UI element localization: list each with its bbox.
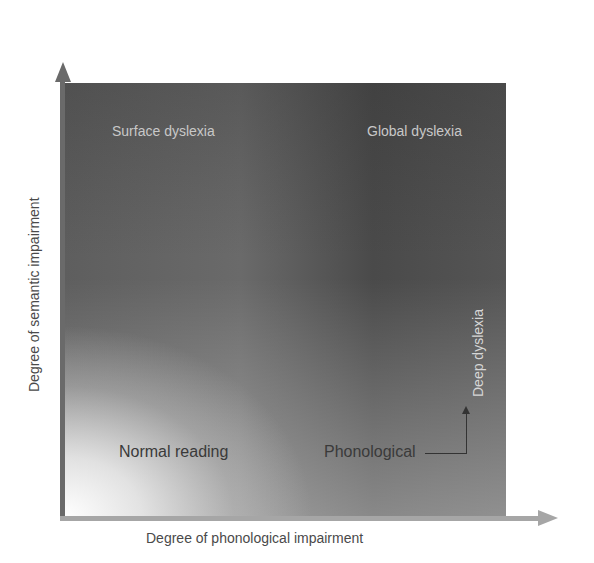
x-axis-title: Degree of phonological impairment [146,530,363,546]
x-axis-line [60,516,540,521]
connector-arrow-up-icon [462,406,470,414]
label-surface-dyslexia: Surface dyslexia [112,123,215,139]
label-deep-dyslexia: Deep dyslexia [470,309,486,397]
dyslexia-diagram: Surface dyslexia Global dyslexia Normal … [0,0,594,563]
y-axis-arrow-icon [55,62,71,82]
connector-horizontal-line [425,453,467,454]
label-normal-reading: Normal reading [119,443,228,461]
label-global-dyslexia: Global dyslexia [367,123,462,139]
y-axis-line [60,80,65,520]
label-phonological: Phonological [324,443,416,461]
connector-vertical-line [466,412,467,454]
y-axis-title: Degree of semantic impairment [26,197,42,392]
x-axis-arrow-icon [538,510,558,526]
